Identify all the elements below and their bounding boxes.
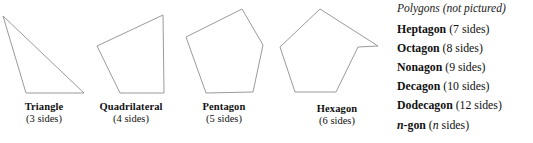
not-pictured-row: Decagon (10 sides): [397, 79, 489, 94]
nonagon-sides: (9 sides): [445, 60, 485, 74]
quadrilateral-shape: [97, 15, 164, 93]
triangle-label: Triangle (3 sides): [0, 101, 88, 126]
pentagon-shape: [186, 9, 263, 93]
hexagon-sides: (6 sides): [292, 115, 382, 127]
n-gon-sides: (n sides): [429, 118, 469, 132]
dodecagon-name: Dodecagon: [397, 98, 453, 112]
nonagon-name: Nonagon: [397, 60, 442, 74]
triangle-name: Triangle: [0, 101, 88, 113]
hexagon-name: Hexagon: [292, 103, 382, 115]
not-pictured-row: Dodecagon (12 sides): [397, 98, 502, 113]
hexagon-shape: [280, 9, 378, 92]
quadrilateral-label: Quadrilateral (4 sides): [86, 101, 176, 126]
not-pictured-row: Octagon (8 sides): [397, 41, 483, 56]
quadrilateral-sides: (4 sides): [86, 113, 176, 125]
octagon-name: Octagon: [397, 41, 440, 55]
decagon-name: Decagon: [397, 79, 440, 93]
not-pictured-row: Heptagon (7 sides): [397, 22, 489, 37]
hexagon-label: Hexagon (6 sides): [292, 103, 382, 128]
polygon-reference-figure: Triangle (3 sides) Quadrilateral (4 side…: [0, 0, 533, 143]
not-pictured-row: n-gon (n sides): [397, 118, 469, 133]
decagon-sides: (10 sides): [443, 79, 489, 93]
not-pictured-heading: Polygons (not pictured): [397, 2, 506, 14]
polygon-shapes-canvas: [0, 0, 396, 100]
triangle-sides: (3 sides): [0, 113, 88, 125]
quadrilateral-name: Quadrilateral: [86, 101, 176, 113]
not-pictured-row: Nonagon (9 sides): [397, 60, 486, 75]
octagon-sides: (8 sides): [443, 41, 483, 55]
heptagon-name: Heptagon: [397, 22, 446, 36]
pentagon-sides: (5 sides): [179, 113, 269, 125]
dodecagon-sides: (12 sides): [456, 98, 502, 112]
pentagon-label: Pentagon (5 sides): [179, 101, 269, 126]
heptagon-sides: (7 sides): [449, 22, 489, 36]
pentagon-name: Pentagon: [179, 101, 269, 113]
n-gon-name: n-gon: [397, 118, 426, 132]
not-pictured-list: Polygons (not pictured) Heptagon (7 side…: [397, 0, 533, 143]
triangle-shape: [3, 16, 84, 93]
